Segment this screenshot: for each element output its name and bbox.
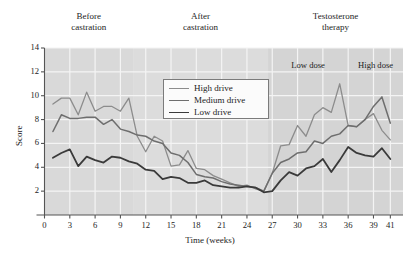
x-tick-label: 41 xyxy=(382,220,398,230)
y-tick-label: 10 xyxy=(23,90,39,100)
legend: High driveMedium driveLow drive xyxy=(163,79,269,119)
y-tick-label: 2 xyxy=(23,185,39,195)
legend-swatch xyxy=(169,112,189,113)
x-tick-label: 3 xyxy=(62,220,78,230)
x-tick-label: 6 xyxy=(87,220,103,230)
chart-figure: 246810121403691215182124273033363941Time… xyxy=(0,0,420,274)
band-after-castration xyxy=(133,48,268,215)
phase-label-line1: Before xyxy=(34,11,144,22)
y-tick-label: 6 xyxy=(23,137,39,147)
x-tick-label: 24 xyxy=(239,220,255,230)
legend-swatch xyxy=(169,100,189,101)
x-axis-title: Time (weeks) xyxy=(0,235,420,245)
x-tick-label: 12 xyxy=(138,220,154,230)
y-tick-label: 4 xyxy=(23,161,39,171)
x-tick-label: 18 xyxy=(188,220,204,230)
phase-label-testosterone: Testosteronetherapy xyxy=(281,11,391,32)
legend-swatch xyxy=(169,88,189,89)
x-tick-label: 21 xyxy=(214,220,230,230)
x-tick-label: 27 xyxy=(264,220,280,230)
x-tick-label: 39 xyxy=(365,220,381,230)
y-tick-label: 12 xyxy=(23,66,39,76)
legend-item-medium-drive: Medium drive xyxy=(164,94,268,106)
x-tick-label: 0 xyxy=(37,220,53,230)
chart-svg xyxy=(0,0,420,274)
x-tick-label: 15 xyxy=(163,220,179,230)
legend-label: Low drive xyxy=(194,106,231,118)
phase-label-line2: castration xyxy=(34,22,144,33)
x-tick-label: 30 xyxy=(290,220,306,230)
x-tick-label: 36 xyxy=(340,220,356,230)
phase-label-line2: castration xyxy=(146,22,256,33)
phase-label-before: Beforecastration xyxy=(34,11,144,32)
dose-label-high-dose: High dose xyxy=(341,60,411,70)
dose-label-low-dose: Low dose xyxy=(273,60,343,70)
y-axis-title: Score xyxy=(14,125,24,146)
legend-item-high-drive: High drive xyxy=(164,82,268,94)
phase-label-after: Aftercastration xyxy=(146,11,256,32)
x-tick-label: 9 xyxy=(112,220,128,230)
band-before-castration xyxy=(45,48,134,215)
y-tick-label: 14 xyxy=(23,42,39,52)
x-tick-label: 33 xyxy=(315,220,331,230)
legend-label: Medium drive xyxy=(194,94,245,106)
legend-item-low-drive: Low drive xyxy=(164,106,268,118)
phase-label-line2: therapy xyxy=(281,22,391,33)
phase-label-line1: Testosterone xyxy=(281,11,391,22)
y-tick-label: 8 xyxy=(23,114,39,124)
legend-label: High drive xyxy=(194,82,233,94)
phase-label-line1: After xyxy=(146,11,256,22)
